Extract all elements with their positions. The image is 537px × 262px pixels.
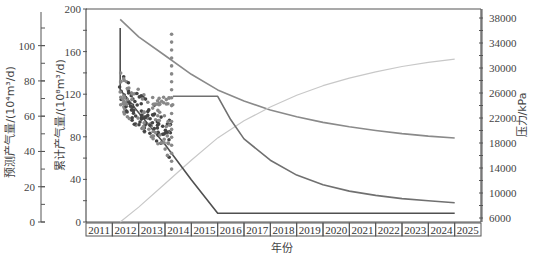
observed-point [119,103,123,107]
observed-point [148,123,152,127]
observed-point [170,167,174,171]
year-label: 2023 [404,224,427,236]
right-tick-label: 38000 [489,12,517,24]
observed-point [170,159,174,163]
observed-point [170,72,174,76]
observed-point [142,121,146,125]
right-axis-title: 压力/kPa [516,93,529,138]
right-tick-label: 30000 [489,62,517,74]
observed-point [163,147,167,151]
observed-point [162,137,166,141]
left-outer-tick-label: 0 [30,216,36,228]
observed-point [119,71,123,75]
observed-point [138,120,142,124]
observed-point [122,110,126,114]
observed-point [134,114,138,118]
year-label: 2014 [167,224,190,236]
observed-point [140,114,144,118]
x-axis-title: 年份 [271,241,293,255]
observed-point [148,131,152,135]
observed-point [130,98,134,102]
observed-point [170,151,174,155]
year-label: 2025 [457,224,480,236]
year-label: 2015 [194,224,217,236]
observed-point [170,80,174,84]
observed-point [147,127,151,131]
right-tick-label: 18000 [489,137,517,149]
observed-point [156,99,160,103]
observed-point [170,144,174,148]
observed-point [122,77,126,81]
observed-point [153,127,157,131]
observed-point [143,115,147,119]
observed-point [138,95,142,99]
observed-point [159,115,163,119]
observed-point [127,91,131,95]
right-tick-label: 6000 [489,212,512,224]
observed-point [163,114,167,118]
observed-point [118,85,122,89]
observed-point [119,79,123,83]
observed-point [166,120,170,124]
observed-point [131,92,135,96]
observed-point [170,120,174,124]
observed-point [154,131,158,135]
right-tick-label: 34000 [489,37,517,49]
left-outer-tick-label: 40 [24,145,36,157]
observed-point [142,125,146,129]
observed-point [170,88,174,92]
left-inner-tick-label: 80 [70,131,82,143]
right-tick-label: 10000 [489,187,517,199]
observed-point [127,81,131,85]
year-label: 2019 [299,224,322,236]
observed-point [170,128,174,132]
observed-point [170,136,174,140]
year-label: 2011 [88,224,110,236]
observed-point [151,113,155,117]
observed-point [141,97,145,101]
observed-point [135,103,139,107]
observed-point [156,114,160,118]
observed-point [160,141,164,145]
observed-point [170,112,174,116]
observed-point [162,95,166,99]
observed-point [147,108,151,112]
observed-point [125,110,129,114]
left-inner-tick-label: 160 [65,46,82,58]
observed-point [165,98,169,102]
observed-point [165,131,169,135]
left-outer-tick-label: 100 [19,40,36,52]
observed-point [127,86,131,90]
observed-point [166,134,170,138]
year-label: 2012 [115,224,137,236]
observed-point [157,119,161,123]
observed-point [157,122,161,126]
observed-point [151,96,155,100]
observed-point [171,103,175,107]
observed-point [157,103,161,107]
observed-point [139,102,143,106]
observed-point [170,32,174,36]
year-label: 2024 [431,224,454,236]
observed-point [168,96,172,100]
left-inner-tick-label: 200 [65,3,82,15]
observed-point [135,92,139,96]
series-line [173,96,455,203]
left-outer-tick-label: 80 [24,75,36,87]
observed-point [156,109,160,113]
observed-point [167,138,171,142]
observed-point [142,111,146,115]
left-outer-tick-label: 20 [24,181,36,193]
left-inner-axis-title: 累计产气量/(10⁸m³/d) [53,59,67,171]
observed-point [133,122,137,126]
observed-point [125,103,129,107]
observed-point [146,100,150,104]
observed-point [168,123,172,127]
year-label: 2013 [141,224,164,236]
left-inner-tick-label: 0 [76,216,82,228]
observed-point [166,154,170,158]
observed-point [152,134,156,138]
observed-point [165,125,169,129]
right-tick-label: 22000 [489,112,517,124]
observed-point [165,102,169,106]
